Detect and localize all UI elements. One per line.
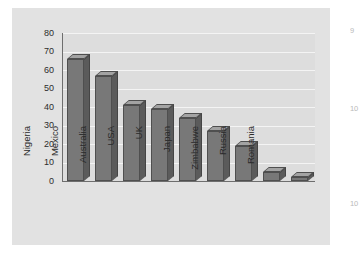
bar-front-face bbox=[291, 177, 308, 181]
x-axis-tick-label: Mexico bbox=[49, 126, 60, 184]
x-axis-tick-label: Japan bbox=[161, 126, 172, 184]
x-axis-tick-label: Russia bbox=[217, 126, 228, 184]
page-margin-artifact: 9 bbox=[350, 26, 364, 35]
bar bbox=[291, 172, 314, 181]
x-axis-tick-labels: NigeriaMexicoAustraliaUSAUKJapanZimbabwe… bbox=[62, 184, 314, 244]
x-axis-tick-label: UK bbox=[133, 126, 144, 184]
x-axis-tick-label: Zimbabwe bbox=[189, 126, 200, 184]
x-axis-tick-label: Australia bbox=[77, 126, 88, 184]
y-axis-tick-label: 50 bbox=[44, 84, 54, 93]
x-axis-tick-label: Nigeria bbox=[21, 126, 32, 184]
y-axis-tick-label: 60 bbox=[44, 66, 54, 75]
bar bbox=[263, 167, 286, 181]
x-axis-tick-label: USA bbox=[105, 126, 116, 184]
x-axis-tick-label: Romania bbox=[245, 126, 256, 184]
y-axis-tick-label: 80 bbox=[44, 29, 54, 38]
page-margin-artifact: 10 bbox=[350, 199, 364, 208]
y-axis-tick-label: 70 bbox=[44, 47, 54, 56]
y-axis-tick-label: 40 bbox=[44, 103, 54, 112]
page-margin-artifact: 10 bbox=[350, 104, 364, 113]
bar-front-face bbox=[263, 172, 280, 181]
bar-chart: Very happy people (per cent) 80706050403… bbox=[12, 8, 330, 245]
